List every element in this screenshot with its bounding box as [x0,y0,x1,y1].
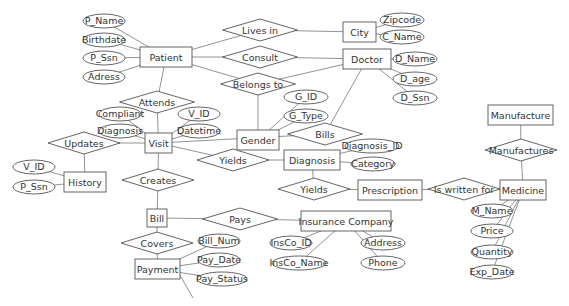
attribute-label: D_Name [395,53,435,64]
attribute-label: Zipcode [383,14,421,25]
relationship-label: Yields [218,155,247,166]
attribute-label: C_Name [382,31,422,42]
relationship-label: Creates [140,175,177,186]
entity-label: City [350,27,369,38]
attribute-label: InsCo_Name [270,257,329,268]
entity-visit[interactable]: Visit [145,133,172,153]
relationship-consult[interactable]: Consult [223,46,298,68]
attribute-insco_id[interactable]: InsCo_ID [270,236,312,250]
entity-city[interactable]: City [343,22,376,42]
relationship-label: Pays [229,214,251,225]
attribute-label: Bill_Num [198,235,240,246]
attribute-label: Adress [88,71,120,82]
entity-label: History [68,177,102,188]
entity-label: Doctor [351,54,383,65]
entity-prescription[interactable]: Prescription [358,180,422,200]
entity-manufacture[interactable]: Manufacture [488,105,553,125]
entity-history[interactable]: History [64,172,106,192]
attribute-m_name[interactable]: M_Name [471,204,513,218]
shapes-layer: PatientCityDoctorGenderVisitHistoryDiagn… [13,13,557,286]
attribute-diagnosis_attr[interactable]: Diagnosis [97,124,143,138]
entity-label: Bill [150,213,164,224]
entity-medicine[interactable]: Medicine [500,180,546,200]
attribute-label: P_Ssn [90,52,117,63]
attribute-p_ssn[interactable]: P_Ssn [83,51,125,65]
entity-diagnosis[interactable]: Diagnosis [284,150,340,170]
attribute-v_id_visit[interactable]: V_ID [178,107,220,121]
attribute-price[interactable]: Price [471,224,513,238]
relationship-creates[interactable]: Creates [122,169,194,191]
attribute-g_type[interactable]: G_Type [284,109,328,123]
attribute-label: Birthdate [82,34,126,45]
er-diagram: PatientCityDoctorGenderVisitHistoryDiagn… [0,0,569,306]
attribute-label: Datetime [177,125,221,136]
attribute-diagnosis_id[interactable]: Diagnosis_ID [341,139,402,153]
relationship-yields1[interactable]: Yields [197,149,269,171]
attribute-bill_num[interactable]: Bill_Num [198,234,240,248]
attribute-d_ssn[interactable]: D_Ssn [393,91,437,105]
relationship-label: Consult [242,52,278,63]
attribute-datetime[interactable]: Datetime [177,124,221,138]
relationship-is_written_for[interactable]: Is written for [428,178,500,200]
attribute-label: Diagnosis_ID [341,140,402,151]
attribute-exp_date[interactable]: Exp_Date [469,265,514,279]
relationship-label: Yields [299,184,328,195]
attribute-g_id[interactable]: G_ID [284,90,328,104]
attribute-adress[interactable]: Adress [83,70,125,84]
attribute-label: P_Name [85,15,124,26]
attribute-label: Phone [368,257,398,268]
entity-payment[interactable]: Payment [135,259,180,279]
attribute-label: G_Type [289,110,323,121]
attribute-p_name[interactable]: P_Name [83,14,125,28]
attribute-insco_name[interactable]: InsCo_Name [270,256,329,270]
attribute-phone[interactable]: Phone [361,256,405,270]
attribute-label: V_ID [188,108,209,119]
attribute-p_ssn_history[interactable]: P_Ssn [13,180,55,194]
attribute-label: G_ID [295,91,317,102]
attribute-label: Compliant [96,108,145,119]
relationship-label: Lives in [242,25,278,36]
attribute-label: P_Ssn [20,181,47,192]
relationship-label: Updates [64,138,103,149]
entity-label: Medicine [502,185,545,196]
entity-doctor[interactable]: Doctor [343,49,391,69]
attribute-d_name[interactable]: D_Name [393,52,437,66]
relationship-label: Bills [315,129,334,140]
attribute-label: Quantity [471,246,512,257]
relationship-label: Manufactures [489,145,554,156]
relationship-covers[interactable]: Covers [121,232,193,254]
attribute-pay_date[interactable]: Pay_Date [197,253,241,267]
attribute-v_id_history[interactable]: V_ID [13,160,55,174]
entity-label: Manufacture [491,110,551,121]
relationship-yields2[interactable]: Yields [278,178,350,200]
attribute-compliant[interactable]: Compliant [96,107,145,121]
entity-gender[interactable]: Gender [237,130,279,150]
relationship-label: Attends [139,97,176,108]
attribute-zipcode[interactable]: Zipcode [380,13,424,27]
entity-patient[interactable]: Patient [140,47,192,67]
entity-insurance[interactable]: Insurance Company [299,211,394,231]
entity-label: Diagnosis [289,155,335,166]
attribute-c_name[interactable]: C_Name [380,30,424,44]
attribute-category[interactable]: Category [351,157,395,171]
entity-bill[interactable]: Bill [147,209,167,227]
entity-label: Payment [137,264,179,275]
attribute-label: InsCo_ID [270,237,311,248]
entity-label: Patient [149,52,182,63]
relationship-label: Is written for [434,184,495,195]
attribute-birthdate[interactable]: Birthdate [82,33,126,47]
attribute-d_age[interactable]: D_age [393,72,437,86]
relationship-pays[interactable]: Pays [203,208,278,230]
relationship-label: Covers [141,238,174,249]
attribute-pay_status[interactable]: Pay_Status [196,272,248,286]
attribute-address[interactable]: Address [361,236,405,250]
attribute-label: Pay_Date [197,254,241,265]
relationship-manufactures[interactable]: Manufactures [485,139,557,161]
attribute-label: Diagnosis [97,125,143,136]
attribute-label: M_Name [472,205,513,216]
attribute-label: V_ID [23,161,44,172]
entity-label: Visit [148,138,169,149]
attribute-quantity[interactable]: Quantity [471,245,513,259]
entity-label: Insurance Company [299,216,394,227]
attribute-label: D_age [400,73,430,84]
